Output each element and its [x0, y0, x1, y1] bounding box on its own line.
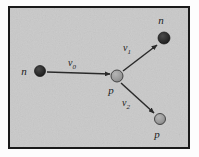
- particle-target-proton: [111, 70, 123, 82]
- particle-recoil-proton: [155, 114, 166, 125]
- vector-v1-subscript: 1: [127, 48, 131, 56]
- figure-frame: [9, 7, 189, 148]
- vector-v0-subscript: 0: [72, 63, 76, 71]
- collision-diagram: n p n p v0 v1 v2: [0, 0, 199, 157]
- label-incoming-neutron: n: [21, 65, 27, 77]
- particle-incoming-neutron: [35, 66, 46, 77]
- label-target-proton: p: [107, 84, 114, 96]
- label-scattered-neutron: n: [158, 14, 164, 26]
- vector-v2-subscript: 2: [126, 103, 130, 111]
- particle-scattered-neutron: [158, 32, 170, 44]
- label-recoil-proton: p: [153, 128, 160, 140]
- figure-container: n p n p v0 v1 v2: [0, 0, 199, 157]
